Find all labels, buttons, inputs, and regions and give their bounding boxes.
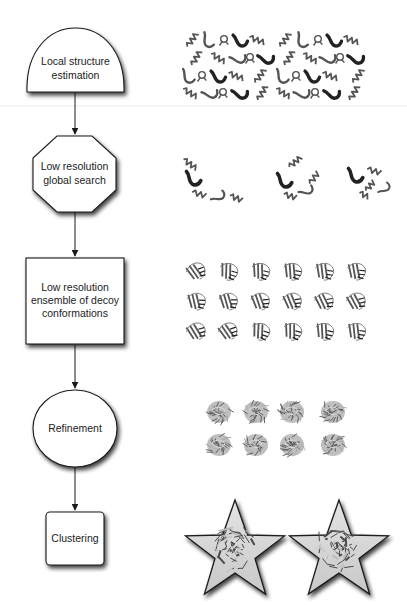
strand-fragment — [294, 84, 312, 102]
helix-fragment — [322, 71, 339, 81]
refined-model — [243, 434, 268, 456]
helix-fragment — [275, 87, 291, 100]
refined-model — [243, 400, 270, 423]
helix-fragment — [288, 155, 303, 169]
helix-fragment — [192, 190, 207, 199]
loop-fragment — [336, 54, 345, 64]
strand-fragment — [320, 49, 338, 67]
helix-fragment — [182, 87, 198, 100]
helix-fragment — [185, 32, 198, 48]
helix-fragment — [367, 167, 382, 176]
refined-models-illustration — [206, 400, 347, 457]
loop-fragment — [198, 72, 207, 82]
strand-fragment — [275, 69, 290, 83]
node-local-structure-estimation[interactable]: Local structure estimation — [27, 28, 124, 92]
node-clustering[interactable]: Clustering — [46, 512, 104, 565]
decoy-model — [250, 293, 270, 311]
helix-fragment — [343, 35, 360, 45]
strand-fragment — [278, 174, 292, 187]
strand-fragment — [349, 169, 363, 182]
helix-fragment — [253, 68, 266, 84]
strand-fragment — [378, 181, 390, 194]
helix-fragment — [283, 50, 296, 66]
helix-fragment — [283, 192, 297, 200]
node-label: Local structure — [41, 55, 110, 67]
refined-model — [280, 434, 305, 458]
helix-fragment — [348, 85, 361, 101]
cluster-centers-illustration — [186, 500, 389, 594]
strand-fragment — [305, 69, 320, 83]
helix-fragment — [364, 180, 376, 193]
strand-fragment — [202, 84, 220, 102]
node-refinement[interactable]: Refinement — [33, 390, 117, 467]
decoy-model — [217, 261, 240, 282]
helix-fragment — [278, 32, 291, 48]
node-label: Low resolution — [41, 281, 109, 293]
strand-fragment — [348, 49, 366, 66]
fragment-library-illustration — [181, 32, 365, 102]
helix-fragment — [249, 35, 266, 45]
loop-fragment — [314, 36, 323, 46]
decoy-model — [282, 262, 303, 282]
node-label: Clustering — [51, 532, 98, 544]
helix-fragment — [182, 157, 198, 170]
decoy-model — [314, 292, 335, 312]
strand-fragment — [324, 84, 342, 101]
helix-fragment — [308, 171, 320, 185]
node-low-resolution-ensemble[interactable]: Low resolution ensemble of decoy conform… — [26, 258, 124, 344]
strand-fragment — [258, 49, 276, 66]
node-label: Refinement — [48, 422, 102, 434]
decoy-model — [217, 321, 240, 343]
decoy-model — [185, 321, 207, 342]
flowchart-canvas: Local structure estimation Low resolutio… — [0, 0, 407, 606]
decoy-model — [185, 261, 208, 283]
decoy-model — [346, 262, 366, 280]
decoy-model — [219, 293, 238, 310]
loop-fragment — [292, 72, 301, 82]
refined-model — [321, 434, 347, 456]
strand-fragment — [327, 33, 342, 47]
decoy-ensemble-illustration — [185, 261, 367, 343]
loop-fragment — [220, 36, 229, 46]
helix-fragment — [210, 52, 226, 65]
strand-fragment — [200, 32, 217, 48]
loop-fragment — [311, 89, 320, 99]
decoy-model — [346, 322, 367, 341]
helix-fragment — [228, 71, 245, 81]
decoy-model — [314, 322, 336, 342]
node-low-resolution-global-search[interactable]: Low resolution global search — [33, 136, 116, 212]
global-search-illustration — [182, 155, 390, 203]
decoy-model — [345, 291, 367, 311]
node-label: ensemble of decoy — [31, 294, 120, 306]
node-label: Low resolution — [41, 160, 109, 172]
helix-fragment — [351, 68, 364, 84]
loop-fragment — [246, 54, 255, 64]
strand-fragment — [211, 69, 226, 83]
strand-fragment — [232, 84, 250, 101]
node-label: conformations — [42, 307, 108, 319]
refined-model — [277, 401, 304, 424]
node-label: estimation — [52, 69, 100, 81]
refined-model — [206, 433, 233, 456]
decoy-model — [249, 321, 272, 343]
cluster-star — [186, 500, 285, 594]
helix-fragment — [302, 52, 318, 65]
helix-fragment — [256, 85, 269, 101]
strand-fragment — [187, 172, 201, 185]
helix-fragment — [190, 50, 203, 66]
decoy-model — [249, 261, 271, 282]
helix-fragment — [229, 193, 243, 202]
decoy-model — [314, 262, 335, 281]
strand-fragment — [211, 188, 226, 203]
loop-fragment — [219, 89, 228, 99]
refined-model — [319, 401, 346, 423]
helix-fragment — [358, 191, 369, 200]
cluster-star — [290, 500, 389, 594]
strand-fragment — [294, 32, 311, 48]
refined-model — [206, 401, 234, 425]
node-label: global search — [43, 174, 106, 186]
strand-fragment — [230, 49, 248, 67]
decoy-model — [187, 293, 206, 310]
strand-fragment — [181, 69, 196, 83]
strand-fragment — [233, 33, 248, 47]
